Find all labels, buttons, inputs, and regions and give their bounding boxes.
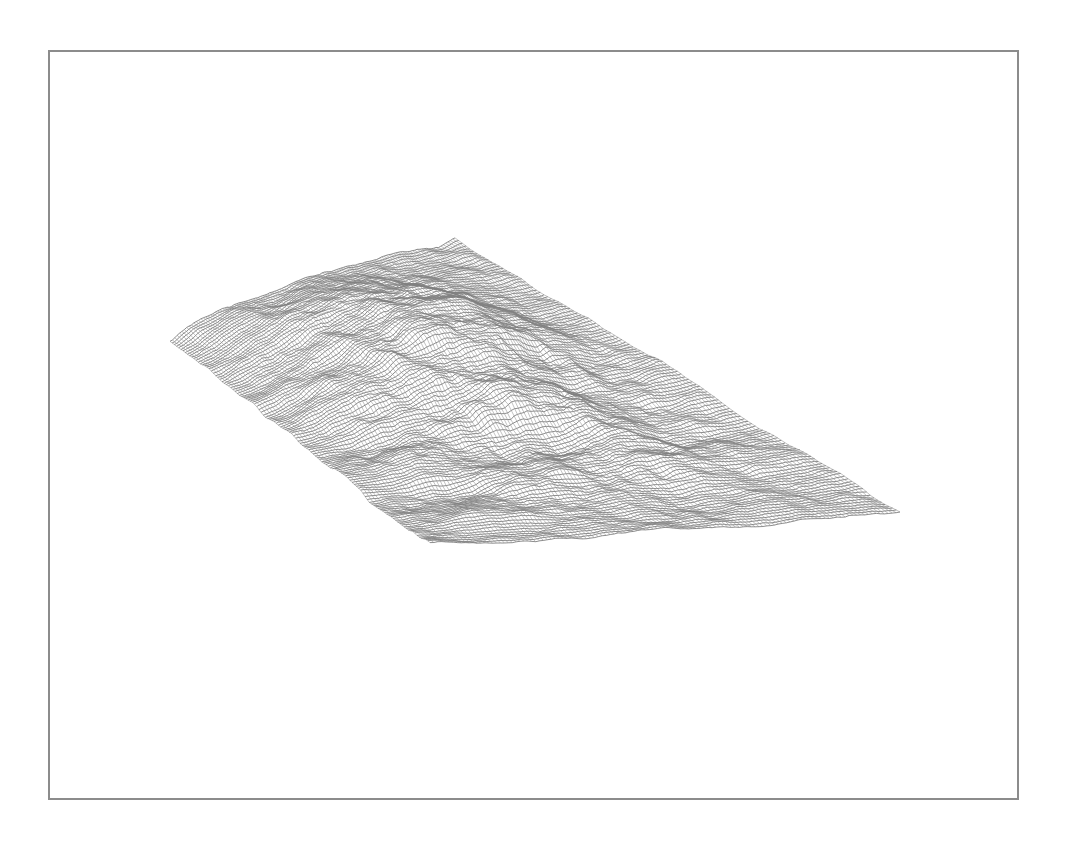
wireframe-mesh [170,238,900,543]
surface-plot [0,0,1073,842]
mesh-lines-u [170,238,900,543]
